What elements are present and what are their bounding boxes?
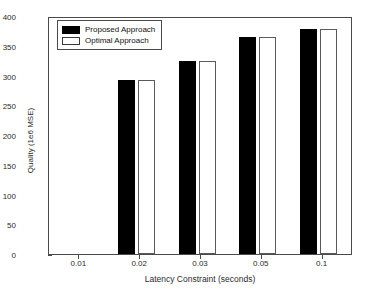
x-tick-mark [261,255,262,259]
y-tick-label: 0 [0,251,16,260]
legend-label-proposed: Proposed Approach [85,25,155,34]
legend-item-proposed: Proposed Approach [62,24,155,35]
x-tick-label: 0.01 [48,259,108,268]
x-tick-label: 0.05 [231,259,291,268]
chart-legend: Proposed Approach Optimal Approach [57,20,162,50]
bar-proposed [300,29,317,255]
y-tick-label: 200 [0,132,16,141]
x-tick-label: 0.03 [170,259,230,268]
y-tick-label: 300 [0,72,16,81]
y-tick-label: 400 [0,13,16,22]
bar-optimal [199,61,216,254]
y-tick-label: 100 [0,191,16,200]
x-tick-mark [139,255,140,259]
bar-group [57,18,94,254]
x-tick-label: 0.1 [292,259,352,268]
bar-optimal [259,37,276,254]
y-tick-mark [48,255,52,256]
x-tick-mark [200,255,201,259]
bars-layer [49,18,351,254]
x-tick-label: 0.02 [109,259,169,268]
y-tick-label: 250 [0,102,16,111]
plot-area [48,17,352,255]
x-axis-label: Latency Constraint (seconds) [48,274,352,284]
legend-label-optimal: Optimal Approach [85,36,149,45]
legend-swatch-optimal [62,37,80,45]
y-tick-label: 350 [0,42,16,51]
y-tick-label: 150 [0,161,16,170]
bar-chart-figure: 050100150200250300350400 Quality (1e6 MS… [0,0,369,301]
legend-swatch-proposed [62,26,80,34]
bar-optimal [138,80,155,254]
bar-proposed [118,80,135,254]
legend-item-optimal: Optimal Approach [62,35,155,46]
x-tick-mark [78,255,79,259]
bar-group [300,18,337,254]
bar-group [118,18,155,254]
bar-proposed [239,37,256,254]
bar-optimal [320,29,337,255]
y-tick-label: 50 [0,221,16,230]
bar-group [239,18,276,254]
x-tick-mark [322,255,323,259]
y-axis-label: Quality (1e6 MSE) [26,81,35,201]
bar-group [179,18,216,254]
bar-proposed [179,61,196,254]
